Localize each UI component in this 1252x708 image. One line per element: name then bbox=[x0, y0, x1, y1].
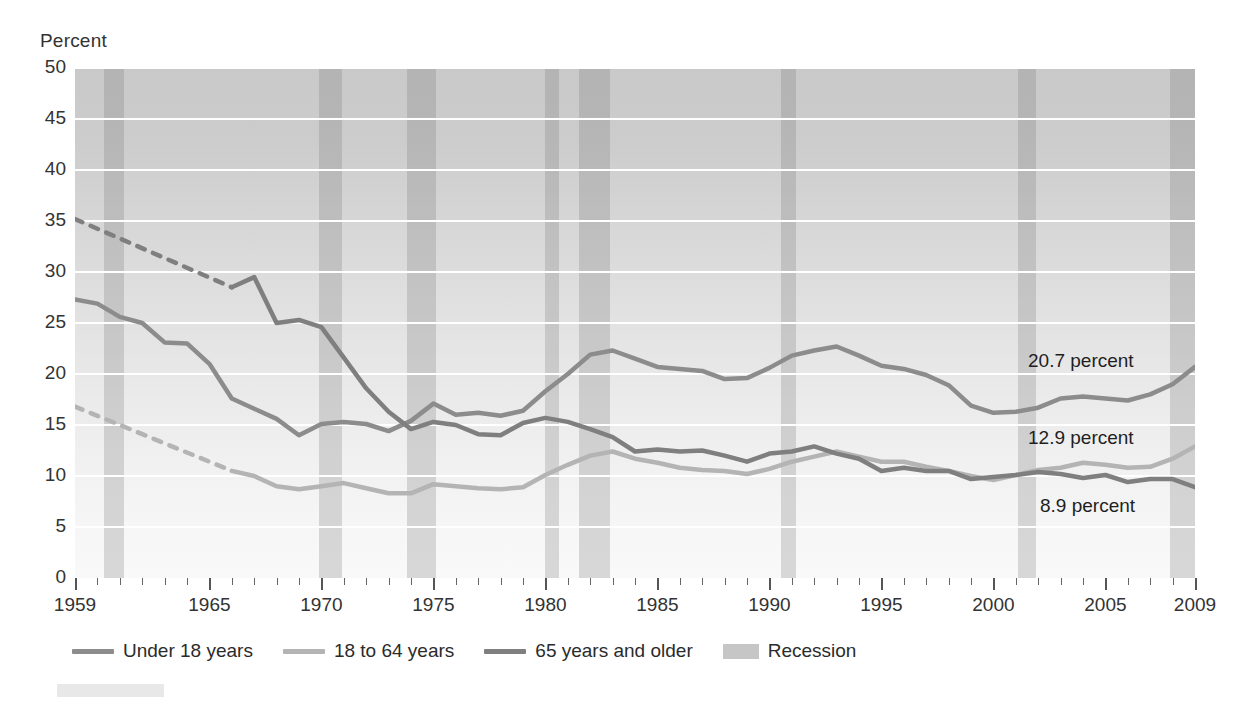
x-axis-major-tick bbox=[769, 578, 771, 590]
x-axis-minor-tick bbox=[299, 578, 300, 585]
y-axis-tick-label: 35 bbox=[22, 209, 66, 231]
y-axis-tick-label: 10 bbox=[22, 464, 66, 486]
x-axis-major-tick bbox=[1105, 578, 1107, 590]
x-axis-minor-tick bbox=[165, 578, 166, 585]
x-axis-tick-label: 1959 bbox=[35, 594, 115, 616]
x-axis-major-tick bbox=[1195, 578, 1197, 590]
series-line-dashed bbox=[75, 407, 232, 471]
x-axis-minor-tick bbox=[254, 578, 255, 585]
legend-item[interactable]: Recession bbox=[723, 640, 857, 662]
x-axis-minor-tick bbox=[97, 578, 98, 585]
chart-figure: Percent 05101520253035404550 19591965197… bbox=[0, 0, 1252, 708]
value-annotation: 20.7 percent bbox=[1028, 350, 1134, 372]
x-axis-minor-tick bbox=[568, 578, 569, 585]
x-axis-minor-tick bbox=[1061, 578, 1062, 585]
x-axis-minor-tick bbox=[837, 578, 838, 585]
x-axis-minor-tick bbox=[389, 578, 390, 585]
x-axis-tick-label: 1965 bbox=[169, 594, 249, 616]
x-axis-minor-tick bbox=[366, 578, 367, 585]
y-axis-tick-label: 30 bbox=[22, 260, 66, 282]
x-axis-minor-tick bbox=[232, 578, 233, 585]
scan-artifact-box bbox=[57, 684, 164, 697]
x-axis-major-tick bbox=[433, 578, 435, 590]
y-axis-tick-labels: 05101520253035404550 bbox=[10, 68, 66, 578]
x-axis-minor-tick bbox=[1173, 578, 1174, 585]
x-axis-minor-tick bbox=[949, 578, 950, 585]
x-axis-tick-label: 1985 bbox=[617, 594, 697, 616]
x-axis-minor-tick bbox=[904, 578, 905, 585]
y-axis-tick-label: 50 bbox=[22, 56, 66, 78]
x-axis-tick-label: 2005 bbox=[1065, 594, 1145, 616]
y-axis-tick-label: 15 bbox=[22, 413, 66, 435]
x-axis-major-tick bbox=[209, 578, 211, 590]
legend-box-swatch bbox=[723, 644, 759, 659]
x-axis-minor-tick bbox=[680, 578, 681, 585]
y-axis-tick-label: 25 bbox=[22, 311, 66, 333]
legend-item[interactable]: 65 years and older bbox=[484, 640, 692, 662]
legend-label: 18 to 64 years bbox=[334, 640, 454, 662]
x-axis-minor-tick bbox=[635, 578, 636, 585]
x-axis-tick-label: 1990 bbox=[729, 594, 809, 616]
x-axis-major-tick bbox=[321, 578, 323, 590]
plot-area bbox=[75, 68, 1195, 578]
y-axis-tick-label: 0 bbox=[22, 566, 66, 588]
x-axis-minor-tick bbox=[344, 578, 345, 585]
x-axis-minor-tick bbox=[814, 578, 815, 585]
y-axis-tick-label: 40 bbox=[22, 158, 66, 180]
x-axis-minor-tick bbox=[120, 578, 121, 585]
x-axis-minor-tick bbox=[792, 578, 793, 585]
legend-item[interactable]: 18 to 64 years bbox=[283, 640, 454, 662]
legend-line-swatch bbox=[72, 649, 114, 654]
x-axis-minor-tick bbox=[523, 578, 524, 585]
y-axis-title: Percent bbox=[40, 30, 107, 52]
x-axis-minor-tick bbox=[725, 578, 726, 585]
series-line-dashed bbox=[75, 219, 232, 287]
x-axis-major-tick bbox=[657, 578, 659, 590]
x-axis-minor-tick bbox=[971, 578, 972, 585]
x-axis-minor-tick bbox=[277, 578, 278, 585]
x-axis-minor-tick bbox=[1150, 578, 1151, 585]
chart-legend: Under 18 years18 to 64 years65 years and… bbox=[72, 640, 856, 662]
y-axis-tick-label: 45 bbox=[22, 107, 66, 129]
value-annotation: 8.9 percent bbox=[1040, 495, 1135, 517]
x-axis-major-tick bbox=[545, 578, 547, 590]
value-annotation: 12.9 percent bbox=[1028, 427, 1134, 449]
x-axis-minor-tick bbox=[590, 578, 591, 585]
series-line bbox=[75, 300, 1195, 436]
legend-line-swatch bbox=[283, 649, 325, 654]
legend-label: Under 18 years bbox=[123, 640, 253, 662]
x-axis-minor-tick bbox=[702, 578, 703, 585]
x-axis-tick-label: 2000 bbox=[953, 594, 1033, 616]
x-axis-tick-label: 1975 bbox=[393, 594, 473, 616]
x-axis-tick-labels: 1959196519701975198019851990199520002005… bbox=[0, 594, 1252, 622]
x-axis-minor-tick bbox=[1128, 578, 1129, 585]
legend-item[interactable]: Under 18 years bbox=[72, 640, 253, 662]
y-axis-tick-label: 20 bbox=[22, 362, 66, 384]
x-axis-minor-tick bbox=[1038, 578, 1039, 585]
x-axis-minor-tick bbox=[142, 578, 143, 585]
x-axis-minor-tick bbox=[613, 578, 614, 585]
x-axis-minor-tick bbox=[501, 578, 502, 585]
legend-label: 65 years and older bbox=[535, 640, 692, 662]
y-axis-tick-label: 5 bbox=[22, 515, 66, 537]
x-axis-tick-label: 1995 bbox=[841, 594, 921, 616]
x-axis-minor-tick bbox=[926, 578, 927, 585]
x-axis-minor-tick bbox=[1016, 578, 1017, 585]
x-axis-tick-label: 2009 bbox=[1155, 594, 1235, 616]
legend-line-swatch bbox=[484, 649, 526, 654]
series-line bbox=[232, 277, 1195, 487]
x-axis-major-tick bbox=[75, 578, 77, 590]
x-axis-minor-tick bbox=[456, 578, 457, 585]
x-axis-minor-tick bbox=[187, 578, 188, 585]
x-axis-ticks bbox=[75, 578, 1200, 592]
x-axis-major-tick bbox=[993, 578, 995, 590]
x-axis-tick-label: 1970 bbox=[281, 594, 361, 616]
x-axis-minor-tick bbox=[1083, 578, 1084, 585]
x-axis-tick-label: 1980 bbox=[505, 594, 585, 616]
x-axis-minor-tick bbox=[411, 578, 412, 585]
legend-label: Recession bbox=[768, 640, 857, 662]
x-axis-minor-tick bbox=[859, 578, 860, 585]
x-axis-major-tick bbox=[881, 578, 883, 590]
series-lines bbox=[75, 68, 1195, 578]
x-axis-minor-tick bbox=[478, 578, 479, 585]
